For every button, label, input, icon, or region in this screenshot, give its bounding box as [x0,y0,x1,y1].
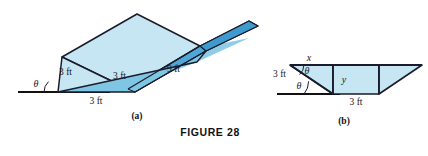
panel-a-gutter-length-label: 9 ft [167,64,180,74]
figure-28-illustration: θ 3 ft 3 ft 9 ft 3 ft (a) [0,0,428,156]
panel-a-angle-label: θ [34,78,39,89]
panel-b-lower-angle-label: θ [297,80,302,91]
panel-b-right-triangle-face [379,65,422,94]
panel-b-upper-angle-label: θ [305,65,310,76]
panel-a-label: (a) [131,111,142,122]
panel-a-drawing: θ 3 ft 3 ft 9 ft 3 ft (a) [18,14,258,122]
panel-b-center-rectangle-face [333,65,379,94]
panel-b-top-run-label: x [306,52,312,63]
panel-a-angle-arc [44,82,49,92]
panel-b-height-label: y [341,74,347,85]
figure-caption: FIGURE 28 [180,126,240,138]
panel-a-right-flap-length-label: 3 ft [113,71,126,81]
panel-a-left-flap-length-label: 3 ft [59,67,72,77]
figure-28-container: θ 3 ft 3 ft 9 ft 3 ft (a) [0,0,428,156]
panel-b-label: (b) [338,116,350,127]
panel-b-base-width-label: 3 ft [350,97,363,107]
panel-b-drawing: x 3 ft y θ θ 3 ft (b) [273,52,422,127]
panel-a-base-width-label: 3 ft [90,96,103,106]
panel-b-side-length-label: 3 ft [273,69,286,79]
panel-b-lower-angle-arc [304,81,309,94]
